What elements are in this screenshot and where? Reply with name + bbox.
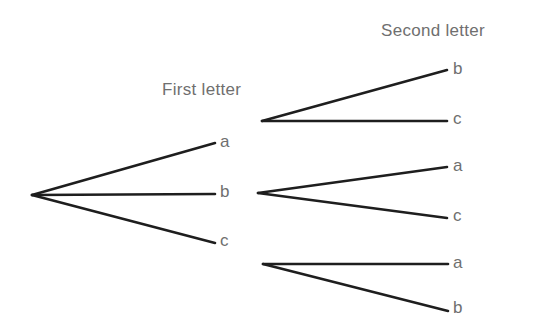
second-letter-heading: Second letter [381, 22, 485, 39]
first-letter-heading: First letter [162, 81, 241, 98]
branch-root-c [32, 195, 215, 243]
branch-b-a [258, 167, 447, 193]
first-level-label-a: a [220, 133, 229, 150]
branch-b-c [258, 193, 447, 218]
second-level-label-a-c: c [453, 110, 462, 127]
tree-diagram: First letter Second letter a b c b c a c… [0, 0, 551, 333]
second-level-label-b-c: c [453, 207, 462, 224]
branch-a-b [262, 70, 447, 121]
second-level-label-b-a: a [453, 157, 462, 174]
branch-root-b [32, 194, 215, 195]
second-level-label-c-b: b [453, 299, 462, 316]
first-level-label-c: c [220, 232, 229, 249]
second-level-label-a-b: b [453, 60, 462, 77]
branch-c-b [263, 264, 448, 311]
branch-root-a [32, 143, 215, 195]
first-level-label-b: b [220, 183, 229, 200]
second-level-label-c-a: a [453, 254, 462, 271]
tree-lines [0, 0, 551, 333]
